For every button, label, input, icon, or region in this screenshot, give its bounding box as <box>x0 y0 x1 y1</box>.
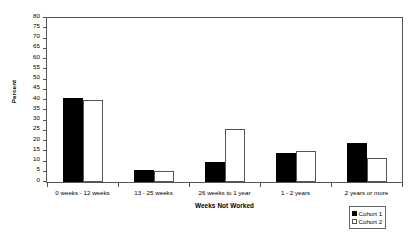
bar-group <box>347 18 387 182</box>
y-axis-tick-label: 30 <box>33 115 40 121</box>
x-axis-category-label: 26 weeks to 1 year <box>189 189 260 197</box>
y-axis-tick-label: 70 <box>33 33 40 39</box>
y-axis-tick-label: 60 <box>33 54 40 60</box>
x-axis-category-label: 0 weeks - 12 weeks <box>47 189 118 197</box>
x-axis-tick-mark <box>118 183 119 187</box>
legend-swatch-icon-cohort-2 <box>352 219 357 224</box>
x-axis-tick-mark <box>189 183 190 187</box>
bar-cohort-1 <box>134 170 154 182</box>
bar-cohort-2 <box>83 100 103 182</box>
legend-swatch-icon-cohort-1 <box>352 211 357 216</box>
bar-cohort-1 <box>276 153 296 182</box>
x-axis-tick-mark <box>331 183 332 187</box>
legend-item-cohort-2: Cohort 2 <box>352 218 382 227</box>
legend-item-cohort-1: Cohort 1 <box>352 209 382 218</box>
y-axis-tick-label: 75 <box>33 23 40 29</box>
bar-group <box>134 18 174 182</box>
y-axis-ticks: 05101520253035404550556065707580 <box>0 17 46 183</box>
bar-cohort-1 <box>205 162 225 183</box>
x-axis-tick-mark <box>260 183 261 187</box>
bar-chart: Percent 05101520253035404550556065707580… <box>0 0 418 237</box>
y-axis-tick-label: 25 <box>33 125 40 131</box>
y-axis-tick-label: 20 <box>33 136 40 142</box>
bar-cohort-2 <box>154 171 174 182</box>
y-axis-tick-label: 55 <box>33 64 40 70</box>
x-axis-category-label: 1 - 2 years <box>260 189 331 197</box>
y-axis-tick-label: 50 <box>33 74 40 80</box>
chart-legend: Cohort 1 Cohort 2 <box>349 206 386 229</box>
y-axis-tick-label: 80 <box>33 13 40 19</box>
y-axis-tick-label: 0 <box>37 177 40 183</box>
y-axis-tick-label: 65 <box>33 43 40 49</box>
y-axis-tick-label: 10 <box>33 156 40 162</box>
y-axis-tick-label: 15 <box>33 146 40 152</box>
bars-layer <box>47 18 402 182</box>
x-axis-tick-mark <box>47 183 48 187</box>
bar-group <box>63 18 103 182</box>
x-axis-category-label: 13 - 25 weeks <box>118 189 189 197</box>
x-axis-category-labels: 0 weeks - 12 weeks13 - 25 weeks26 weeks … <box>47 189 402 201</box>
bar-cohort-2 <box>225 129 245 182</box>
bar-cohort-1 <box>347 143 367 182</box>
y-axis-tick-label: 5 <box>37 166 40 172</box>
y-axis-tick-label: 40 <box>33 95 40 101</box>
legend-label-cohort-1: Cohort 1 <box>359 210 383 217</box>
bar-group <box>205 18 245 182</box>
legend-label-cohort-2: Cohort 2 <box>359 218 383 225</box>
bar-cohort-2 <box>296 151 316 182</box>
y-axis-tick-label: 35 <box>33 105 40 111</box>
bar-cohort-1 <box>63 98 83 182</box>
bar-cohort-2 <box>367 158 387 182</box>
y-axis-tick-label: 45 <box>33 84 40 90</box>
x-axis-category-label: 2 years or more <box>331 189 402 197</box>
x-axis-tick-mark <box>402 183 403 187</box>
x-axis-ticks <box>47 183 402 187</box>
bar-group <box>276 18 316 182</box>
